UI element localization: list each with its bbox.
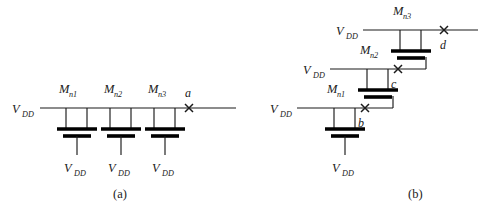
panel-b: V DD M n1 V DD	[270, 4, 478, 201]
panel-b-mn3-subscript: n3	[403, 12, 411, 21]
panel-b-mn1-source-supply-label: V DD	[332, 161, 354, 178]
panel-a: V DD M n1 V DD	[12, 82, 236, 201]
panel-b-mn1-supply-subscript: DD	[279, 110, 292, 119]
panel-b-node-d-label: d	[440, 38, 447, 52]
panel-b-transistor-mn3: V DD M n3	[336, 4, 478, 58]
panel-b-node-b-label: b	[358, 116, 364, 130]
panel-a-mn2-source-letter: V	[108, 161, 117, 175]
schematic-canvas: V DD M n1 V DD	[0, 0, 494, 215]
panel-b-mn2-label: M n2	[359, 43, 378, 60]
panel-b-caption: (b)	[408, 187, 423, 201]
panel-a-mn2-source-subscript: DD	[117, 169, 130, 178]
panel-a-mn2-source-supply-label: V DD	[108, 161, 130, 178]
panel-a-node-a-label: a	[185, 86, 191, 100]
panel-a-mn2-subscript: n2	[114, 90, 122, 99]
panel-a-mn3-source-letter: V	[152, 161, 161, 175]
panel-a-rail-supply-letter: V	[12, 102, 21, 116]
panel-a-mn2-label: M n2	[103, 82, 122, 99]
panel-b-mn2-supply-letter: V	[303, 63, 312, 77]
panel-b-mn2-subscript: n2	[370, 51, 378, 60]
panel-a-transistor-mn1: M n1 V DD	[57, 82, 97, 178]
panel-b-mn3-supply-letter: V	[336, 24, 345, 38]
panel-a-rail-supply-subscript: DD	[21, 110, 34, 119]
panel-a-transistor-mn3: M n3 V DD	[145, 82, 185, 178]
circuit-figure: V DD M n1 V DD	[0, 0, 494, 215]
panel-a-mn1-subscript: n1	[69, 90, 77, 99]
panel-b-mn3-supply-label: V DD	[336, 24, 358, 41]
panel-a-mn1-source-supply-label: V DD	[64, 161, 86, 178]
panel-a-mn1-source-subscript: DD	[73, 169, 86, 178]
panel-b-mn1-source-subscript: DD	[341, 169, 354, 178]
panel-b-mn2-supply-label: V DD	[303, 63, 325, 80]
panel-b-mn1-subscript: n1	[337, 90, 345, 99]
panel-b-mn1-label: M n1	[326, 82, 345, 99]
panel-a-rail-supply-label: V DD	[12, 102, 34, 119]
panel-b-mn3-supply-subscript: DD	[345, 32, 358, 41]
panel-a-mn3-source-supply-label: V DD	[152, 161, 174, 178]
panel-a-mn3-subscript: n3	[158, 90, 166, 99]
panel-a-transistor-mn2: M n2 V DD	[101, 82, 141, 178]
panel-b-node-c-label: c	[391, 77, 397, 91]
panel-b-mn1-source-letter: V	[332, 161, 341, 175]
panel-a-mn3-label: M n3	[147, 82, 166, 99]
panel-b-mn1-supply-letter: V	[270, 102, 279, 116]
panel-b-mn2-supply-subscript: DD	[312, 71, 325, 80]
panel-b-mn1-supply-label: V DD	[270, 102, 292, 119]
panel-a-caption: (a)	[113, 187, 127, 201]
panel-a-mn3-source-subscript: DD	[161, 169, 174, 178]
panel-a-mn1-label: M n1	[58, 82, 77, 99]
panel-a-mn1-source-letter: V	[64, 161, 73, 175]
panel-b-mn3-label: M n3	[392, 4, 411, 21]
